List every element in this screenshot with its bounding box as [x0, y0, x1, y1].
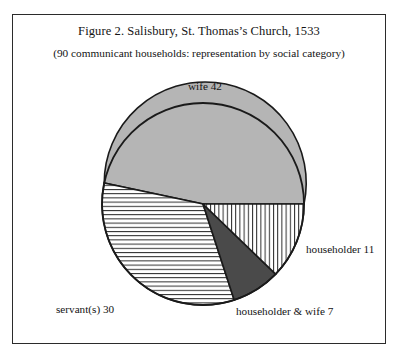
figure-subtitle: (90 communicant households: representati…: [13, 46, 385, 61]
figure-title: Figure 2. Salisbury, St. Thomas’s Church…: [13, 23, 385, 40]
pie-label-servants: servant(s) 30: [56, 303, 114, 315]
figure-caption: Figure 2. Salisbury, St. Thomas’s Church…: [13, 23, 385, 61]
pie-label-householder: householder 11: [306, 243, 374, 255]
pie-label-wife: wife 42: [188, 80, 222, 92]
figure-frame: Figure 2. Salisbury, St. Thomas’s Church…: [12, 14, 386, 344]
pie-label-householder-and-wife: householder & wife 7: [236, 305, 333, 317]
